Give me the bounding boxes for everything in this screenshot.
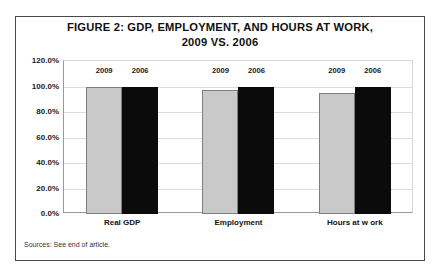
bar-pair bbox=[180, 60, 296, 214]
figure-root: FIGURE 2: GDP, EMPLOYMENT, AND HOURS AT … bbox=[0, 0, 445, 277]
bar-2009-hours-at-w-ork bbox=[319, 93, 355, 214]
y-axis-tick-label: 80.0% bbox=[7, 107, 59, 116]
category-axis-labels: Real GDPEmploymentHours at w ork bbox=[64, 218, 413, 227]
y-axis-tick-label: 120.0% bbox=[7, 56, 59, 65]
bar-groups: 200920062009200620092006 bbox=[64, 60, 413, 214]
bar-2006-hours-at-w-ork bbox=[355, 87, 391, 215]
category-label: Hours at w ork bbox=[297, 218, 413, 227]
bar-group: 20092006 bbox=[180, 60, 296, 214]
bar-2006-employment bbox=[238, 87, 274, 215]
y-axis-tick-labels: 0.0%20.0%40.0%60.0%80.0%100.0%120.0% bbox=[5, 60, 59, 213]
category-label: Real GDP bbox=[64, 218, 180, 227]
bar-2006-real-gdp bbox=[122, 87, 158, 215]
bar-2009-employment bbox=[202, 90, 238, 214]
category-label: Employment bbox=[180, 218, 296, 227]
bar-group: 20092006 bbox=[64, 60, 180, 214]
figure-title: FIGURE 2: GDP, EMPLOYMENT, AND HOURS AT … bbox=[18, 20, 422, 50]
bar-pair bbox=[297, 60, 413, 214]
source-note: Sources: See end of article. bbox=[24, 241, 110, 248]
bar-2009-real-gdp bbox=[86, 87, 122, 215]
bar-pair bbox=[64, 60, 180, 214]
y-axis-tick-label: 0.0% bbox=[7, 209, 59, 218]
bar-group: 20092006 bbox=[297, 60, 413, 214]
figure-title-line2: 2009 VS. 2006 bbox=[18, 35, 422, 50]
y-axis-tick-label: 60.0% bbox=[7, 132, 59, 141]
y-axis-tick-label: 20.0% bbox=[7, 183, 59, 192]
figure-title-line1: FIGURE 2: GDP, EMPLOYMENT, AND HOURS AT … bbox=[67, 21, 373, 33]
y-axis-tick-label: 100.0% bbox=[7, 81, 59, 90]
y-axis-tick-label: 40.0% bbox=[7, 158, 59, 167]
